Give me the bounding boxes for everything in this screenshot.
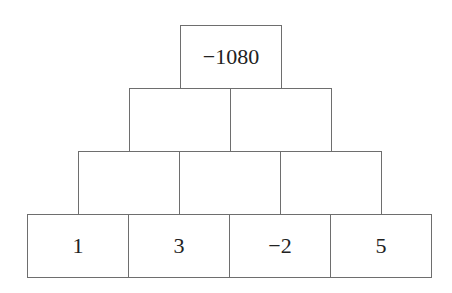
pyramid-cell-r3-c1: [78, 151, 180, 215]
pyramid-cell-r4-c3: −2: [229, 214, 331, 278]
pyramid-cell-r2-c2: [230, 88, 332, 152]
pyramid-cell-r2-c1: [129, 88, 231, 152]
pyramid-cell-r3-c3: [280, 151, 382, 215]
pyramid-cell-r4-c4: 5: [330, 214, 432, 278]
pyramid-cell-top: −1080: [180, 25, 282, 89]
pyramid-cell-r4-c1: 1: [27, 214, 129, 278]
pyramid-cell-r3-c2: [179, 151, 281, 215]
pyramid-cell-r4-c2: 3: [128, 214, 230, 278]
